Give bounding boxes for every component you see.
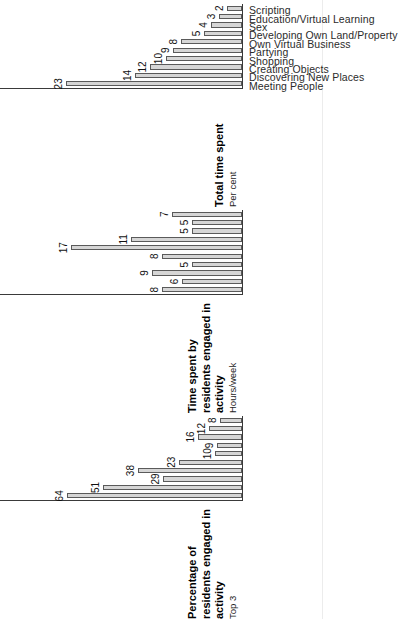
bar[interactable]: 29: [163, 476, 242, 481]
chart-panel-percentage-of-residents: Percentage of residents engaged in activ…: [0, 413, 243, 619]
bar[interactable]: 17: [71, 245, 242, 250]
bar-slot: 29: [0, 475, 242, 483]
panel-title-block-percentage-of-residents: Percentage of residents engaged in activ…: [0, 501, 243, 619]
bar[interactable]: 8: [220, 418, 242, 423]
bar-slot: 23: [0, 80, 242, 88]
bar-value-label: 9: [139, 270, 150, 276]
panel-subtitle: Per cent: [227, 95, 239, 207]
bar-value-label: 64: [54, 490, 65, 501]
panel-title-block-time-spent: Time spent by residents engaged in activ…: [0, 295, 243, 413]
bar[interactable]: 12: [209, 426, 242, 431]
category-axis: Meeting PeopleDiscovering New PlacesCrea…: [243, 0, 383, 619]
bar-value-label: 10: [202, 448, 213, 459]
panel-subtitle: Hours/week: [227, 301, 239, 413]
bar[interactable]: 8: [162, 287, 242, 292]
plot-area-time-spent: 869581711557: [0, 210, 243, 295]
bar-value-label: 7: [159, 211, 170, 217]
bar[interactable]: 3: [219, 14, 242, 19]
bar-value-label: 5: [179, 228, 190, 234]
bar[interactable]: 4: [211, 22, 242, 27]
bar[interactable]: 23: [179, 460, 242, 465]
bar-value-label: 9: [204, 443, 215, 449]
bar[interactable]: 6: [182, 279, 242, 284]
bar-slot: 12: [0, 424, 242, 432]
bar-slot: 8: [0, 38, 242, 46]
bar-value-label: 51: [90, 482, 101, 493]
bar[interactable]: 51: [103, 485, 242, 490]
bar[interactable]: 5: [192, 262, 242, 267]
bar-value-label: 4: [198, 22, 209, 28]
bar-value-label: 23: [166, 457, 177, 468]
bar-value-label: 8: [168, 39, 179, 45]
panel-subtitle: Top 3: [227, 507, 239, 619]
bar-slot: 10: [0, 450, 242, 458]
bar-value-label: 38: [125, 465, 136, 476]
bar[interactable]: 9: [152, 270, 242, 275]
bar-value-label: 2: [214, 5, 225, 11]
bar-value-label: 17: [58, 242, 69, 253]
bar-group: 869581711557: [0, 210, 243, 294]
category-label: Scripting: [249, 4, 291, 16]
bar-group: 645129382310916128: [0, 416, 243, 500]
bar-value-label: 8: [207, 417, 218, 423]
bar-value-label: 5: [191, 31, 202, 37]
bar[interactable]: 64: [67, 493, 242, 498]
bar[interactable]: 7: [172, 212, 242, 217]
bar-value-label: 8: [149, 253, 160, 259]
bar-slot: 10: [0, 54, 242, 62]
bar-value-label: 8: [149, 287, 160, 293]
bar[interactable]: 5: [192, 228, 242, 233]
bar[interactable]: 5: [192, 220, 242, 225]
bar[interactable]: 11: [131, 237, 242, 242]
bar-slot: 7: [0, 210, 242, 218]
bar[interactable]: 23: [66, 81, 242, 86]
panel-title: Time spent by residents engaged in activ…: [186, 301, 239, 413]
bar-slot: 5: [0, 227, 242, 235]
bar-slot: 5: [0, 260, 242, 268]
panel-title: Percentage of residents engaged in activ…: [186, 507, 239, 619]
bar-slot: 4: [0, 21, 242, 29]
bar-value-label: 23: [53, 78, 64, 89]
bar[interactable]: 8: [162, 254, 242, 259]
chart-panel-time-spent: Time spent by residents engaged in activ…: [0, 207, 243, 413]
bar[interactable]: 9: [217, 443, 242, 448]
bar-slot: 9: [0, 46, 242, 54]
bar-value-label: 11: [118, 234, 129, 244]
bar-slot: 5: [0, 218, 242, 226]
bar[interactable]: 10: [215, 451, 242, 456]
bar[interactable]: 8: [181, 39, 242, 44]
bar-slot: 2: [0, 4, 242, 12]
bar-value-label: 5: [179, 262, 190, 268]
category-label: Developing Own Land/Property: [249, 29, 398, 41]
bar-slot: 8: [0, 286, 242, 294]
plot-area-total-time-spent: 23141210985432: [0, 4, 243, 89]
panel-title: Total time spentPer cent: [213, 95, 239, 207]
bar-group: 23141210985432: [0, 4, 243, 88]
chart-panel-total-time-spent: Total time spentPer cent23141210985432: [0, 1, 243, 207]
plot-area-percentage-of-residents: 645129382310916128: [0, 416, 243, 501]
bar-value-label: 9: [160, 47, 171, 53]
bar[interactable]: 5: [204, 31, 242, 36]
bar[interactable]: 12: [150, 64, 242, 69]
bar[interactable]: 2: [227, 6, 242, 11]
bar-slot: 8: [0, 252, 242, 260]
bar-slot: 9: [0, 269, 242, 277]
bar-slot: 14: [0, 71, 242, 79]
bar[interactable]: 10: [166, 56, 242, 61]
bar[interactable]: 9: [173, 48, 242, 53]
bar-value-label: 14: [122, 70, 133, 81]
bar-slot: 5: [0, 29, 242, 37]
bar[interactable]: 16: [198, 434, 242, 439]
bar-value-label: 29: [150, 473, 161, 484]
bar[interactable]: 38: [138, 468, 242, 473]
bar-slot: 12: [0, 63, 242, 71]
bar-slot: 11: [0, 235, 242, 243]
bar-value-label: 16: [185, 431, 196, 442]
bar-slot: 17: [0, 244, 242, 252]
bar-slot: 3: [0, 12, 242, 20]
bar-slot: 51: [0, 483, 242, 491]
bar[interactable]: 14: [135, 73, 242, 78]
bar-slot: 9: [0, 441, 242, 449]
